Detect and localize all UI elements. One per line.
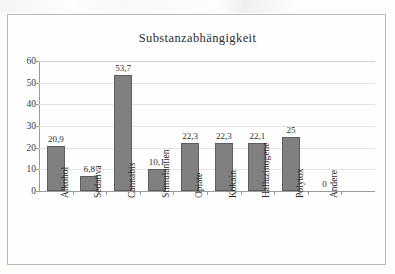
gridline — [39, 126, 375, 127]
bar-value-label: 22,3 — [182, 131, 198, 141]
x-axis-category-label: Sedativa — [93, 165, 103, 198]
x-axis-tick-mark — [207, 191, 208, 195]
x-axis-tick-mark — [241, 191, 242, 195]
x-axis-category-label: Polytox — [295, 168, 305, 198]
chart-frame: Substanzabhängigkeit 0102030405060 20,96… — [7, 14, 386, 265]
x-axis-category-label: Kokain — [228, 170, 238, 198]
y-axis-tick-mark — [36, 169, 39, 170]
gridline — [39, 148, 375, 149]
y-axis-tick-mark — [36, 191, 39, 192]
bar-value-label: 22,3 — [216, 131, 232, 141]
bar-value-label: 22,1 — [250, 131, 266, 141]
bar-value-label: 53,7 — [115, 63, 131, 73]
y-axis-tick-label: 20 — [10, 143, 36, 153]
x-axis-tick-mark — [173, 191, 174, 195]
x-axis-category-label: Cannabis — [127, 163, 137, 198]
bar-value-label: 20,9 — [48, 134, 64, 144]
bar-value-label: 0 — [322, 179, 327, 189]
x-axis-tick-mark — [73, 191, 74, 195]
x-axis-category-label: Halluzinogene — [261, 143, 271, 198]
x-axis-category-label: Andere — [329, 170, 339, 198]
x-axis-tick-mark — [106, 191, 107, 195]
scan-artifact — [0, 0, 395, 13]
y-axis-tick-label: 10 — [10, 164, 36, 174]
y-axis-tick-mark — [36, 148, 39, 149]
chart-screenshot: Substanzabhängigkeit 0102030405060 20,96… — [0, 0, 395, 274]
y-axis-tick-label: 50 — [10, 78, 36, 88]
y-axis-tick-mark — [36, 126, 39, 127]
y-axis-tick-mark — [36, 83, 39, 84]
x-axis-category-label: Opiate — [194, 173, 204, 198]
gridline — [39, 83, 375, 84]
bar-value-label: 25 — [287, 125, 296, 135]
y-axis-tick-label: 0 — [10, 186, 36, 196]
y-axis-tick-label: 30 — [10, 121, 36, 131]
x-axis-tick-mark — [140, 191, 141, 195]
x-axis-category-label: Alkohol — [60, 167, 70, 198]
x-axis-tick-mark — [308, 191, 309, 195]
x-axis-tick-mark — [341, 191, 342, 195]
y-axis-tick-label: 40 — [10, 99, 36, 109]
x-axis-tick-mark — [274, 191, 275, 195]
y-axis-tick-label: 60 — [10, 56, 36, 66]
y-axis-tick-mark — [36, 104, 39, 105]
plot-area: 0102030405060 20,96,853,710,122,322,322,… — [39, 61, 375, 191]
gridline — [39, 61, 375, 62]
y-axis-tick-mark — [36, 61, 39, 62]
chart-title: Substanzabhängigkeit — [8, 31, 387, 46]
x-axis-category-label: Stimulantien — [161, 149, 171, 198]
gridline — [39, 104, 375, 105]
